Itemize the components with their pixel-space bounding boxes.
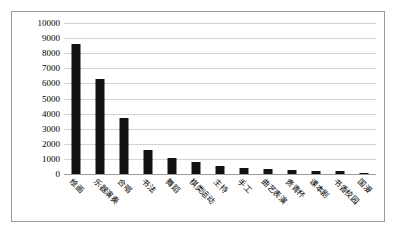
y-axis-tick-label: 2000: [42, 139, 60, 148]
x-label-slot: 书法: [136, 174, 160, 222]
bar-slot: [64, 23, 88, 174]
x-label-slot: 绘画: [64, 174, 88, 222]
x-label-slot: 舞蹈: [160, 174, 184, 222]
x-axis-category-label: 主持: [212, 177, 230, 195]
bar[interactable]: [144, 150, 153, 174]
x-axis-category-label: 书法: [140, 177, 158, 195]
y-axis-tick-label: 5000: [42, 94, 60, 103]
x-label-slot: 合唱: [112, 174, 136, 222]
y-axis-tick-label: 10000: [38, 19, 61, 28]
y-axis-tick-label: 7000: [42, 64, 60, 73]
x-axis-category-label: 国漫: [356, 177, 374, 195]
x-label-slot: 贵青杯: [280, 174, 304, 222]
y-axis-tick-label: 9000: [42, 34, 60, 43]
y-axis-tick-label: 8000: [42, 49, 60, 58]
chart-frame: 1000090008000700060005000400030002000100…: [11, 11, 385, 222]
x-label-slot: 乐器演奏: [88, 174, 112, 222]
bar[interactable]: [192, 162, 201, 174]
x-label-slot: 书香校园: [328, 174, 352, 222]
x-label-slot: 曲艺表演: [256, 174, 280, 222]
bar[interactable]: [72, 44, 81, 174]
bar-slot: [112, 23, 136, 174]
bar[interactable]: [96, 79, 105, 174]
bar-slot: [232, 23, 256, 174]
x-label-slot: 国漫: [352, 174, 376, 222]
x-label-slot: 棋类运动: [184, 174, 208, 222]
bar-slot: [280, 23, 304, 174]
bars-group: [64, 23, 376, 174]
x-label-slot: 课本剧: [304, 174, 328, 222]
x-axis-category-label: 合唱: [116, 177, 134, 195]
bar-slot: [328, 23, 352, 174]
x-axis-category-labels: 绘画乐器演奏合唱书法舞蹈棋类运动主持手工曲艺表演贵青杯课本剧书香校园国漫: [64, 174, 376, 222]
y-axis-tick-label: 0: [56, 170, 61, 179]
y-axis-tick-label: 3000: [42, 124, 60, 133]
plot-area: 1000090008000700060005000400030002000100…: [64, 23, 376, 174]
bar[interactable]: [168, 158, 177, 174]
bar-slot: [136, 23, 160, 174]
y-axis-tick-label: 6000: [42, 79, 60, 88]
bar[interactable]: [120, 118, 129, 174]
y-axis-tick-label: 1000: [42, 154, 60, 163]
bar-slot: [160, 23, 184, 174]
x-axis-category-label: 手工: [236, 177, 254, 195]
bar-slot: [208, 23, 232, 174]
x-label-slot: 手工: [232, 174, 256, 222]
x-label-slot: 主持: [208, 174, 232, 222]
bar[interactable]: [216, 166, 225, 174]
bar-slot: [352, 23, 376, 174]
bar-slot: [304, 23, 328, 174]
y-axis-tick-label: 4000: [42, 109, 60, 118]
bar-slot: [256, 23, 280, 174]
x-axis-category-label: 舞蹈: [164, 177, 182, 195]
bar-slot: [184, 23, 208, 174]
bar-slot: [88, 23, 112, 174]
x-axis-category-label: 绘画: [68, 177, 86, 195]
